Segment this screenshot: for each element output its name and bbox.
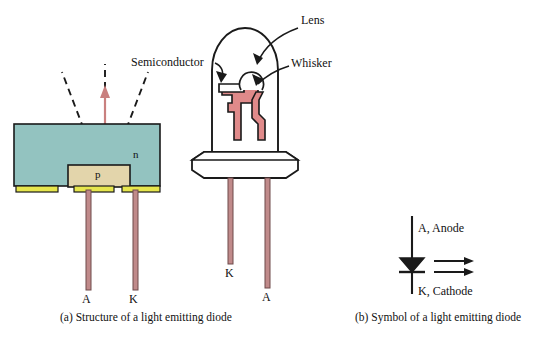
p-region-label: p bbox=[95, 168, 101, 180]
package-cathode-label: K bbox=[225, 266, 234, 281]
package-anode-label: A bbox=[262, 290, 271, 305]
n-region-label: n bbox=[133, 148, 139, 160]
structure-anode-label: A bbox=[82, 292, 91, 307]
semiconductor-label: Semiconductor bbox=[131, 55, 204, 70]
contact-strip-right bbox=[122, 186, 160, 192]
contact-strip-center bbox=[74, 186, 114, 192]
symbol-cathode-label: K, Cathode bbox=[418, 284, 473, 299]
diode-triangle bbox=[400, 258, 424, 272]
panel-b-caption: (b) Symbol of a light emitting diode bbox=[355, 311, 521, 323]
structure-lead-anode bbox=[86, 190, 91, 290]
contact-strip-left bbox=[16, 186, 58, 192]
panel-a-caption: (a) Structure of a light emitting diode bbox=[60, 311, 232, 323]
whisker-label: Whisker bbox=[291, 56, 332, 71]
symbol-anode-label: A, Anode bbox=[418, 221, 464, 236]
led-figure: n p A K Lens Semiconductor Whisker K A A… bbox=[0, 0, 539, 343]
package-lead-anode bbox=[265, 178, 270, 288]
structure-lead-cathode bbox=[133, 190, 138, 290]
structure-cathode-label: K bbox=[129, 292, 138, 307]
package-lead-cathode bbox=[228, 178, 233, 264]
led-flange-top-edge bbox=[192, 152, 298, 160]
lens-label: Lens bbox=[301, 13, 324, 28]
symbol-emission-arrows bbox=[434, 257, 474, 276]
